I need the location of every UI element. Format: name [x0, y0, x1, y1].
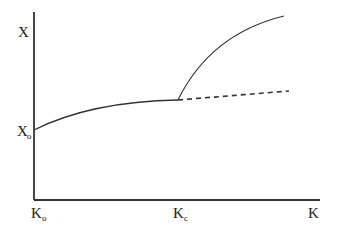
x-origin-subscript: o [42, 213, 47, 223]
x-axis-label: K [308, 205, 319, 221]
y-axis-label: X [18, 24, 29, 40]
y-origin-subscript: o [27, 131, 32, 141]
x-critical-subscript: c [184, 213, 188, 223]
upper-branch [178, 16, 284, 100]
dashed-branch [178, 91, 289, 100]
base-curve [34, 100, 178, 130]
bifurcation-diagram: X X o K o K c K [0, 0, 337, 231]
x-origin-label: K [31, 205, 42, 221]
x-critical-label: K [173, 205, 184, 221]
